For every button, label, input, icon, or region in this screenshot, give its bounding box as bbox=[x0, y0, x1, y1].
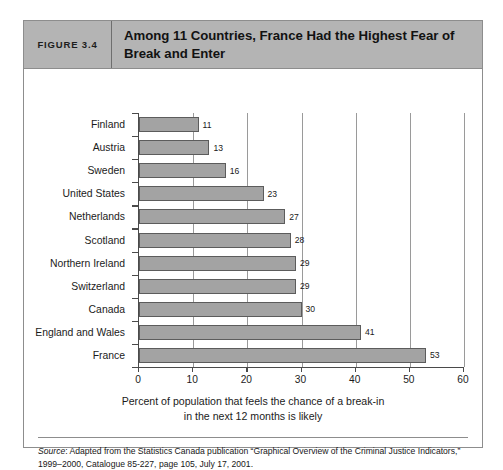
bar-row: 23 bbox=[139, 182, 464, 205]
bar-value-label: 29 bbox=[300, 258, 310, 268]
y-tick bbox=[132, 252, 138, 253]
figure-container: FIGURE 3.4 Among 11 Countries, France Ha… bbox=[23, 20, 483, 448]
category-label: Finland bbox=[24, 113, 132, 136]
y-tick bbox=[132, 159, 138, 160]
x-tick-label: 60 bbox=[457, 374, 468, 385]
y-tick bbox=[132, 228, 138, 229]
gridline bbox=[464, 113, 465, 367]
y-tick bbox=[132, 298, 138, 299]
x-tick-label: 50 bbox=[403, 374, 414, 385]
bar-value-label: 13 bbox=[213, 143, 223, 153]
bar bbox=[139, 279, 296, 294]
category-label: Netherlands bbox=[24, 205, 132, 228]
bar-chart: FinlandAustriaSwedenUnited StatesNetherl… bbox=[24, 69, 482, 389]
bars-layer: 1113162327282929304153 bbox=[139, 113, 464, 367]
x-axis-title-line1: Percent of population that feels the cha… bbox=[24, 394, 482, 409]
bar bbox=[139, 348, 426, 363]
bar bbox=[139, 325, 361, 340]
bar-row: 29 bbox=[139, 275, 464, 298]
figure-number-label: FIGURE 3.4 bbox=[37, 39, 97, 50]
source-label: Source bbox=[38, 446, 65, 456]
x-tick bbox=[246, 367, 247, 372]
x-tick bbox=[138, 367, 139, 372]
bar-value-label: 41 bbox=[365, 327, 375, 337]
figure-header: FIGURE 3.4 Among 11 Countries, France Ha… bbox=[24, 21, 482, 69]
category-label: Switzerland bbox=[24, 275, 132, 298]
bar-row: 53 bbox=[139, 344, 464, 367]
bar bbox=[139, 186, 264, 201]
category-label: Northern Ireland bbox=[24, 252, 132, 275]
bar-value-label: 27 bbox=[289, 212, 299, 222]
category-label: France bbox=[24, 344, 132, 367]
bar-value-label: 29 bbox=[300, 281, 310, 291]
figure-number-cell: FIGURE 3.4 bbox=[24, 21, 112, 68]
y-tick bbox=[132, 321, 138, 322]
bar-value-label: 11 bbox=[203, 120, 212, 130]
source-text: : Adapted from the Statistics Canada pub… bbox=[38, 446, 460, 469]
y-tick bbox=[132, 182, 138, 183]
x-tick bbox=[355, 367, 356, 372]
bar-row: 28 bbox=[139, 228, 464, 251]
x-tick bbox=[301, 367, 302, 372]
y-tick bbox=[132, 344, 138, 345]
category-label: Austria bbox=[24, 136, 132, 159]
bar bbox=[139, 140, 209, 155]
x-axis-title-line2: in the next 12 months is likely bbox=[24, 409, 482, 424]
bar-row: 11 bbox=[139, 113, 464, 136]
x-tick-label: 0 bbox=[135, 374, 141, 385]
bar-value-label: 16 bbox=[230, 166, 240, 176]
bar-value-label: 23 bbox=[268, 189, 278, 199]
bar-row: 30 bbox=[139, 298, 464, 321]
bar-row: 13 bbox=[139, 136, 464, 159]
bar bbox=[139, 163, 226, 178]
y-tick bbox=[132, 113, 138, 114]
x-tick bbox=[192, 367, 193, 372]
bar-row: 29 bbox=[139, 252, 464, 275]
category-label: England and Wales bbox=[24, 321, 132, 344]
x-tick bbox=[463, 367, 464, 372]
x-tick-label: 40 bbox=[349, 374, 360, 385]
category-label: Canada bbox=[24, 298, 132, 321]
bar bbox=[139, 209, 285, 224]
category-label: Scotland bbox=[24, 228, 132, 251]
bar bbox=[139, 302, 302, 317]
y-tick bbox=[132, 367, 138, 368]
x-tick-label: 30 bbox=[295, 374, 306, 385]
source-note: Source: Adapted from the Statistics Cana… bbox=[38, 445, 468, 470]
category-axis: FinlandAustriaSwedenUnited StatesNetherl… bbox=[24, 113, 132, 367]
y-tick bbox=[132, 205, 138, 206]
figure-body: FinlandAustriaSwedenUnited StatesNetherl… bbox=[24, 69, 482, 449]
bar bbox=[139, 233, 291, 248]
figure-title: Among 11 Countries, France Had the Highe… bbox=[124, 27, 474, 62]
bar bbox=[139, 256, 296, 271]
bar-row: 16 bbox=[139, 159, 464, 182]
bar-value-label: 28 bbox=[295, 235, 305, 245]
bar-value-label: 53 bbox=[430, 350, 440, 360]
y-tick bbox=[132, 136, 138, 137]
x-tick-label: 10 bbox=[186, 374, 197, 385]
x-axis-title: Percent of population that feels the cha… bbox=[24, 394, 482, 424]
source-divider bbox=[38, 437, 468, 438]
bar-row: 27 bbox=[139, 205, 464, 228]
x-tick bbox=[409, 367, 410, 372]
plot-area: 1113162327282929304153 bbox=[138, 113, 464, 367]
bar bbox=[139, 117, 199, 132]
category-label: United States bbox=[24, 182, 132, 205]
x-tick-label: 20 bbox=[241, 374, 252, 385]
bar-value-label: 30 bbox=[306, 304, 316, 314]
category-label: Sweden bbox=[24, 159, 132, 182]
bar-row: 41 bbox=[139, 321, 464, 344]
y-tick bbox=[132, 275, 138, 276]
figure-title-cell: Among 11 Countries, France Had the Highe… bbox=[112, 21, 482, 68]
